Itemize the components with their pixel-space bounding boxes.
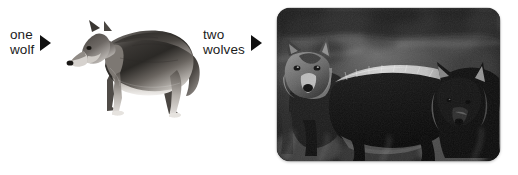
label-two-wolves: two wolves bbox=[203, 28, 262, 57]
illustration-canvas: one wolf bbox=[0, 0, 518, 175]
right-arrow-icon bbox=[40, 35, 51, 51]
label-one-wolf-line2: wolf bbox=[10, 43, 34, 58]
label-one-wolf-line1: one bbox=[10, 28, 34, 43]
two-wolves-photo bbox=[277, 8, 500, 161]
label-two-wolves-text: two wolves bbox=[203, 28, 245, 57]
single-wolf-cutout-image bbox=[62, 10, 207, 125]
label-one-wolf: one wolf bbox=[10, 28, 51, 57]
right-arrow-icon bbox=[251, 35, 262, 51]
label-one-wolf-text: one wolf bbox=[10, 28, 34, 57]
label-two-wolves-line2: wolves bbox=[203, 43, 245, 58]
label-two-wolves-line1: two bbox=[203, 28, 245, 43]
